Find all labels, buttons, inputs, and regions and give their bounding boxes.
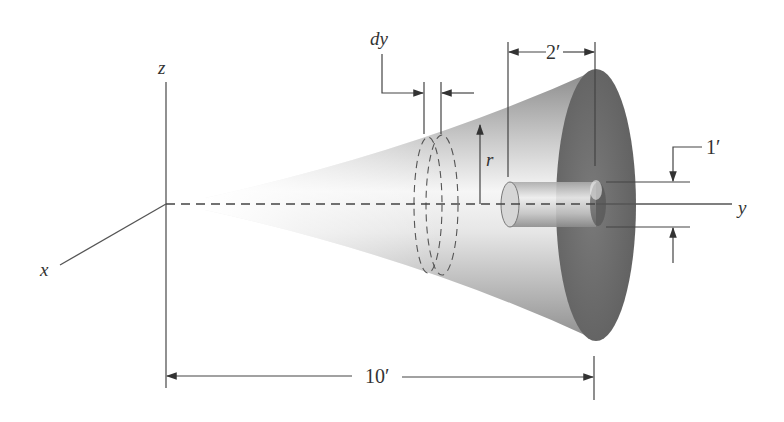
z-axis-label: z [157, 57, 166, 78]
axes [60, 82, 166, 388]
y-axis-label: y [736, 197, 747, 218]
hole-surface [510, 182, 596, 227]
x-axis-label: x [39, 259, 49, 280]
hole-diameter-label: 1′ [706, 136, 720, 158]
hole-length-label: 2′ [546, 41, 560, 63]
hole-highlight [590, 180, 602, 200]
radius-label: r [486, 149, 494, 170]
x-axis [60, 204, 166, 265]
cone-diagram: z x y dy r 2′ 1′ 10′ [0, 0, 784, 422]
dy-label: dy [370, 28, 389, 49]
total-length-label: 10′ [365, 365, 389, 387]
dy-dimension [382, 54, 474, 134]
